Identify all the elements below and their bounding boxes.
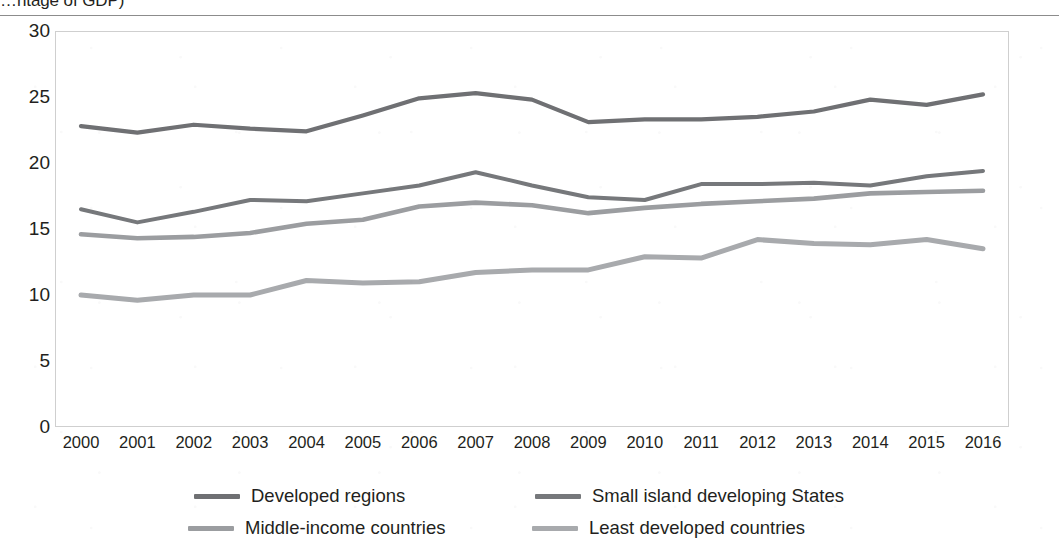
y-tick-label: 5 (6, 351, 50, 370)
y-axis: 302520151050 (0, 16, 50, 456)
y-tick-label: 15 (6, 219, 50, 238)
legend-label-developed-regions: Developed regions (251, 485, 405, 507)
x-tick-label: 2001 (109, 431, 165, 453)
y-tick-label: 20 (6, 153, 50, 172)
chart-legend: Developed regions Small island developin… (180, 479, 920, 542)
figure-title: …ntage of GDP) (0, 0, 1059, 15)
legend-label-small-island-developing-states: Small island developing States (592, 485, 844, 507)
legend-item-small-island-developing-states[interactable]: Small island developing States (535, 481, 844, 511)
legend-label-least-developed-countries: Least developed countries (589, 517, 805, 539)
legend-swatch-developed-regions (194, 494, 240, 499)
x-tick-label: 2007 (448, 431, 504, 453)
x-tick-label: 2014 (842, 431, 898, 453)
x-tick-label: 2002 (166, 431, 222, 453)
series-line (81, 93, 983, 133)
y-tick-label: 25 (6, 87, 50, 106)
legend-item-middle-income-countries[interactable]: Middle-income countries (188, 513, 446, 542)
x-tick-label: 2005 (335, 431, 391, 453)
legend-item-least-developed-countries[interactable]: Least developed countries (532, 513, 805, 542)
x-tick-label: 2000 (53, 431, 109, 453)
line-chart: 302520151050 200020012002200320042005200… (0, 16, 1059, 537)
plot-lines (55, 31, 1009, 427)
legend-swatch-middle-income-countries (188, 526, 234, 531)
x-tick-label: 2012 (730, 431, 786, 453)
x-tick-label: 2006 (391, 431, 447, 453)
y-tick-label: 0 (6, 417, 50, 436)
legend-swatch-small-island-developing-states (535, 494, 581, 499)
y-tick-label: 10 (6, 285, 50, 304)
x-tick-label: 2011 (673, 431, 729, 453)
x-tick-label: 2008 (504, 431, 560, 453)
series-line (81, 191, 983, 239)
x-tick-label: 2015 (899, 431, 955, 453)
x-tick-label: 2016 (955, 431, 1011, 453)
x-tick-label: 2010 (617, 431, 673, 453)
legend-swatch-least-developed-countries (532, 526, 578, 531)
x-tick-label: 2013 (786, 431, 842, 453)
series-line (81, 240, 983, 301)
x-tick-label: 2009 (560, 431, 616, 453)
legend-label-middle-income-countries: Middle-income countries (245, 517, 446, 539)
x-axis: 2000200120022003200420052006200720082009… (55, 431, 1009, 461)
legend-item-developed-regions[interactable]: Developed regions (194, 481, 405, 511)
y-tick-label: 30 (6, 21, 50, 40)
x-tick-label: 2004 (279, 431, 335, 453)
x-tick-label: 2003 (222, 431, 278, 453)
